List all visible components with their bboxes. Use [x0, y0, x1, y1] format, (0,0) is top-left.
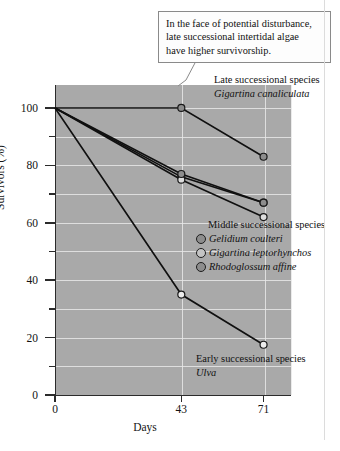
- callout-line-3: have higher survivorship.: [166, 44, 324, 57]
- figure-root: 02040608010004371 Survivors (%) Days In …: [0, 0, 340, 451]
- annotation-early-successional: Early successional species Ulva: [196, 352, 306, 379]
- data-point-marker: [260, 199, 267, 206]
- legend-marker-icon: [196, 262, 206, 272]
- series-line-gigartina-canaliculata: [55, 108, 264, 157]
- annotation-late-species-name: Gigartina canaliculata: [214, 87, 320, 101]
- legend-item-label: Rhodoglossum affine: [209, 260, 296, 274]
- callout-line-2: late successional intertidal algae: [166, 30, 324, 43]
- callout-line-1: In the face of potential disturbance,: [166, 17, 324, 30]
- callout-box: In the face of potential disturbance, la…: [158, 11, 331, 63]
- data-point-marker: [178, 291, 185, 298]
- data-point-marker: [260, 153, 267, 160]
- figure-caption-partial: [0, 437, 340, 451]
- legend-title: Middle successional species: [208, 218, 325, 232]
- legend-item: Gigartina leptorhynchos: [196, 246, 325, 260]
- legend-marker-icon: [196, 234, 206, 244]
- legend-item-label: Gelidium coulteri: [209, 232, 283, 246]
- annotation-late-successional: Late successional species Gigartina cana…: [214, 73, 320, 100]
- legend-rows: Gelidium coulteriGigartina leptorhynchos…: [196, 232, 325, 274]
- legend-middle-successional: Middle successional species Gelidium cou…: [196, 218, 325, 275]
- annotation-early-line-1: Early successional species: [196, 352, 306, 366]
- legend-item: Rhodoglossum affine: [196, 260, 325, 274]
- page-rule: [324, 0, 325, 440]
- annotation-late-line-1: Late successional species: [214, 73, 320, 87]
- legend-item: Gelidium coulteri: [196, 232, 325, 246]
- legend-item-label: Gigartina leptorhynchos: [209, 246, 311, 260]
- legend-marker-icon: [196, 248, 206, 258]
- data-point-marker: [178, 170, 185, 177]
- data-point-marker: [178, 104, 185, 111]
- annotation-early-species-name: Ulva: [196, 366, 306, 380]
- callout-pointer: [178, 61, 196, 86]
- data-point-marker: [260, 341, 267, 348]
